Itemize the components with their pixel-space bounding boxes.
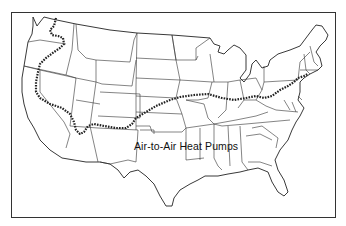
us-map [0,0,346,226]
map-label: Air-to-Air Heat Pumps [134,140,238,152]
